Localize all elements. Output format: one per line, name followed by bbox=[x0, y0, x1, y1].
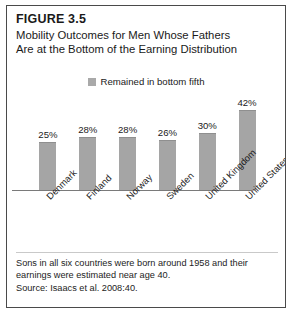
figure-note: Sons in all six countries were born arou… bbox=[16, 257, 278, 294]
bar-united-kingdom bbox=[199, 133, 216, 190]
bar-value-label: 25% bbox=[38, 129, 57, 140]
note-source: Source: Isaacs et al. 2008:40. bbox=[16, 282, 278, 294]
bar-value-label: 28% bbox=[78, 124, 97, 135]
bar-value-label: 42% bbox=[237, 97, 256, 108]
bar-sweden bbox=[159, 140, 176, 190]
category-slot: United States bbox=[227, 192, 267, 252]
category-slot: Sweden bbox=[148, 192, 188, 252]
note-line-2: earnings were estimated near age 40. bbox=[16, 269, 278, 281]
category-slot: Finland bbox=[68, 192, 108, 252]
chart-legend: Remained in bottom fifth bbox=[7, 76, 285, 87]
note-divider bbox=[16, 252, 278, 253]
note-line-1: Sons in all six countries were born arou… bbox=[16, 257, 278, 269]
category-slot: Norway bbox=[108, 192, 148, 252]
bar-finland bbox=[79, 137, 96, 190]
figure-frame: FIGURE 3.5 Mobility Outcomes for Men Who… bbox=[6, 5, 286, 308]
figure-number: FIGURE 3.5 bbox=[16, 12, 86, 26]
x-axis-category-labels: DenmarkFinlandNorwaySwedenUnited Kingdom… bbox=[28, 192, 267, 252]
legend-label: Remained in bottom fifth bbox=[101, 76, 205, 87]
bar-value-label: 26% bbox=[158, 127, 177, 138]
category-slot: Denmark bbox=[28, 192, 68, 252]
category-slot: United Kingdom bbox=[187, 192, 227, 252]
legend-swatch-icon bbox=[88, 78, 96, 86]
figure-title-line-2: Are at the Bottom of the Earning Distrib… bbox=[16, 42, 280, 56]
bar-value-label: 30% bbox=[198, 120, 217, 131]
bar-norway bbox=[119, 137, 136, 190]
bar-value-label: 28% bbox=[118, 124, 137, 135]
figure-title-line-1: Mobility Outcomes for Men Whose Fathers bbox=[16, 28, 280, 42]
figure-title: Mobility Outcomes for Men Whose Fathers … bbox=[16, 28, 280, 56]
